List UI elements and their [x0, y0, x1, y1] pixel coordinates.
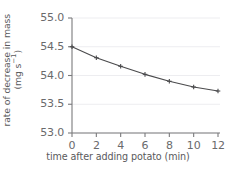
x-axis-title: time after adding potato (min) — [0, 152, 236, 162]
chart-figure: rate of decrease in mass (mg s−1) 53.053… — [0, 0, 236, 172]
x-tick-label: 10 — [187, 140, 201, 151]
x-tick-label: 4 — [117, 140, 124, 151]
x-tick-label: 6 — [142, 140, 149, 151]
x-tick-label: 8 — [166, 140, 173, 151]
x-tick-label: 12 — [211, 140, 225, 151]
x-axis-tick-labels: 024681012 — [0, 0, 236, 172]
x-tick-label: 0 — [69, 140, 76, 151]
x-tick-label: 2 — [93, 140, 100, 151]
